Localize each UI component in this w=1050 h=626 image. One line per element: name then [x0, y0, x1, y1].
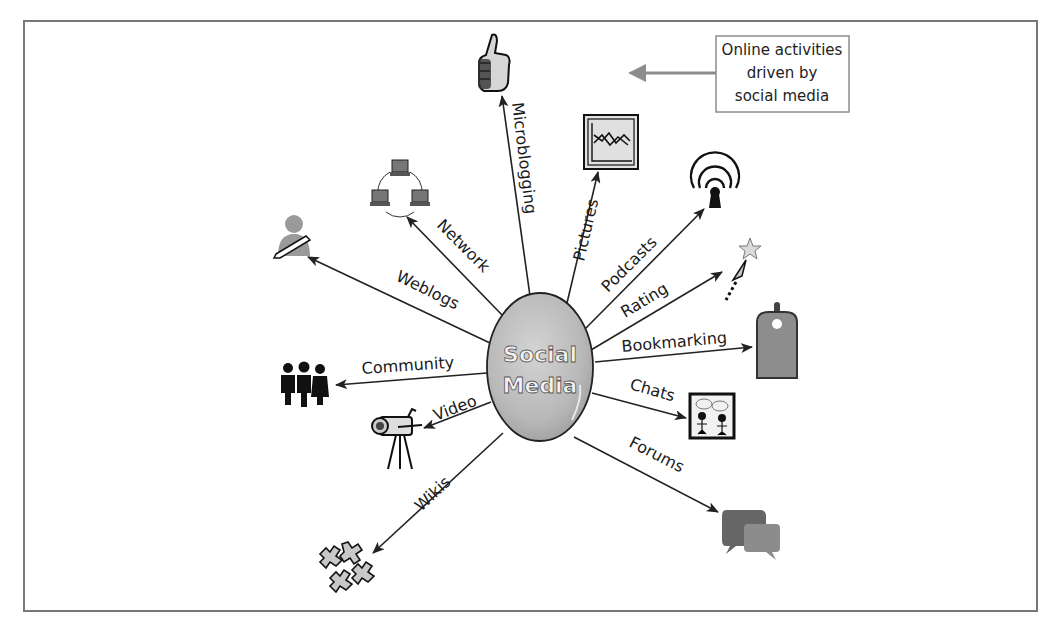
- label-wikis: Wikis: [411, 472, 455, 515]
- label-microblogging: Microblogging: [508, 101, 541, 215]
- social-media-diagram: Online activities driven by social media…: [0, 0, 1050, 626]
- label-bookmarking: Bookmarking: [621, 328, 728, 356]
- bookmark-tag-icon: [757, 302, 797, 378]
- spoke-community: [336, 373, 487, 385]
- star-rating-icon: [726, 238, 761, 300]
- wiki-puzzle-icon: [320, 542, 374, 592]
- hub-label-line-1: Social: [503, 342, 577, 367]
- label-video: Video: [431, 391, 480, 425]
- legend: Online activities driven by social media: [628, 36, 849, 112]
- label-weblogs: Weblogs: [393, 267, 462, 314]
- label-rating: Rating: [617, 279, 671, 322]
- legend-line-1: Online activities: [722, 41, 843, 59]
- forum-speech-bubbles-icon: [722, 510, 780, 560]
- computer-network-icon: [370, 160, 430, 217]
- thumbs-up-icon: [478, 35, 510, 91]
- label-network: Network: [433, 215, 494, 276]
- label-pictures: Pictures: [569, 197, 602, 263]
- legend-line-2: driven by: [747, 64, 818, 82]
- label-chats: Chats: [628, 375, 677, 406]
- picture-chart-icon: [584, 115, 638, 169]
- legend-line-3: social media: [735, 87, 829, 105]
- legend-arrow-icon: [628, 64, 716, 82]
- weblog-writer-icon: [274, 215, 310, 258]
- hub-social-media: Social Media: [487, 293, 593, 441]
- video-camera-icon: [372, 409, 422, 469]
- spoke-podcasts: [584, 209, 704, 330]
- community-people-icon: [281, 362, 329, 408]
- chat-people-icon: [690, 394, 734, 438]
- label-community: Community: [361, 353, 455, 378]
- podcast-broadcast-icon: [691, 152, 739, 208]
- hub-label-line-2: Media: [503, 373, 578, 398]
